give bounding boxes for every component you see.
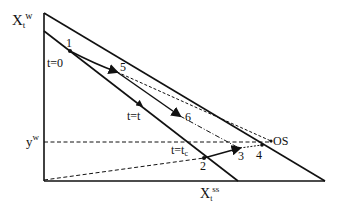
point-4 (260, 143, 264, 147)
label-5: 5 (120, 60, 126, 74)
origin-to-2-dashed (44, 158, 204, 180)
yw-label: yw (26, 132, 40, 149)
label-3: 3 (238, 149, 244, 163)
label-tt: t=t (127, 109, 141, 123)
label-4: 4 (256, 148, 262, 162)
label-2: 2 (200, 159, 206, 173)
label-t0: t=0 (47, 56, 63, 70)
y-axis-label: Xtw (12, 10, 33, 30)
p5-to-os-dashed (117, 72, 271, 141)
label-6: 6 (185, 110, 191, 124)
label-os: OS (273, 134, 288, 148)
label-1: 1 (66, 36, 72, 50)
inner-constraint-line (44, 31, 238, 181)
x-axis-label: Xtss (200, 184, 220, 203)
label-tc: t=tc (171, 143, 188, 158)
path-2-to-3 (204, 148, 240, 158)
phase-diagram: Xtw Xtss yw 1 5 6 2 3 4 OS t=0 t=t t=tc (0, 0, 340, 209)
